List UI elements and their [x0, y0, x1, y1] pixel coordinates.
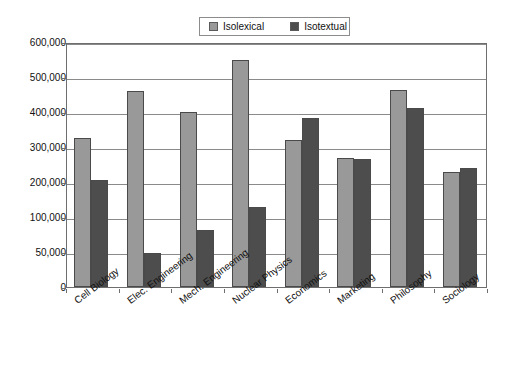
- y-axis: 050,000100,000200,000300,000400,000500,0…: [0, 43, 66, 289]
- x-tick-mark: [224, 289, 225, 293]
- x-tick-mark: [171, 289, 172, 293]
- x-axis-labels: Cell BiologyElec. EngineeringMech. Engin…: [0, 289, 514, 373]
- bar-isolexical: [127, 91, 144, 287]
- legend-swatch-isotextual: [290, 22, 299, 31]
- legend-label-isotextual: Isotextual: [304, 22, 347, 32]
- bar-isolexical: [74, 138, 91, 287]
- bar-isolexical: [443, 172, 460, 287]
- legend-item-isotextual: Isotextual: [290, 22, 347, 32]
- legend-label-isolexical: Isolexical: [223, 22, 264, 32]
- bars-layer: [67, 44, 486, 287]
- y-tick-label: 50,000: [8, 248, 66, 258]
- y-tick-label: 600,000: [8, 38, 66, 48]
- x-tick-mark: [487, 289, 488, 293]
- bar-isotextual: [302, 118, 319, 287]
- x-tick-mark: [119, 289, 120, 293]
- legend-item-isolexical: Isolexical: [209, 22, 264, 32]
- chart-legend: Isolexical Isotextual: [199, 17, 350, 36]
- legend-swatch-isolexical: [209, 22, 218, 31]
- x-tick-mark: [277, 289, 278, 293]
- y-tick-label: 300,000: [8, 143, 66, 153]
- y-tick-label: 200,000: [8, 178, 66, 188]
- bar-isolexical: [390, 90, 407, 287]
- bar-isolexical: [337, 158, 354, 287]
- x-tick-mark: [434, 289, 435, 293]
- x-tick-mark: [382, 289, 383, 293]
- y-tick-label: 400,000: [8, 108, 66, 118]
- bar-isotextual: [460, 168, 477, 287]
- plot-area: [66, 43, 487, 288]
- x-tick-mark: [66, 289, 67, 293]
- bar-isotextual: [407, 108, 424, 287]
- bar-isotextual: [354, 159, 371, 287]
- bar-chart: Isolexical Isotextual 050,000100,000200,…: [0, 0, 514, 373]
- x-tick-mark: [329, 289, 330, 293]
- y-tick-label: 500,000: [8, 73, 66, 83]
- y-tick-label: 100,000: [8, 213, 66, 223]
